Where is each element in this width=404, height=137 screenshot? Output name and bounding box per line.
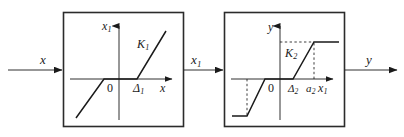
block2-xaxis-label: x1 — [318, 82, 328, 94]
block2-origin-label: 0 — [268, 82, 274, 94]
block2-saturation-label: a2 — [306, 83, 315, 94]
diagram-vector-layer — [0, 0, 404, 137]
block2-breakpoint-label: Δ2 — [288, 83, 298, 94]
block2-axes — [231, 26, 333, 120]
block1-slope-label: K1 — [137, 38, 149, 50]
block1-breakpoint-label: Δ1 — [133, 82, 144, 94]
block2-slope-label: K2 — [285, 47, 297, 59]
block2-border — [225, 13, 345, 127]
block1-curve — [76, 31, 166, 118]
output-signal-label: y — [366, 53, 372, 66]
input-signal-label: x — [40, 53, 46, 66]
block1-xaxis-label: x — [160, 82, 165, 94]
figure-canvas: x x1 x 0 K1 Δ1 x1 y x1 0 K2 Δ2 a — [0, 0, 404, 137]
block1-yaxis-label: x1 — [102, 20, 112, 32]
intermediate-signal-label: x1 — [191, 53, 201, 66]
block1-origin-label: 0 — [107, 82, 113, 94]
block2-yaxis-label: y — [268, 21, 273, 33]
